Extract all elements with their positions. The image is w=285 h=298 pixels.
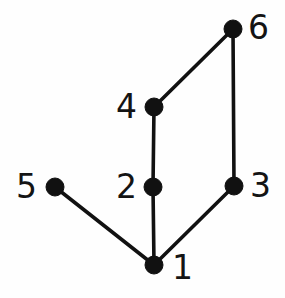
graph-node-2[interactable] [144,178,162,196]
graph-figure: 123456 [0,0,285,298]
edges-group [55,29,234,265]
graph-node-3[interactable] [225,177,243,195]
graph-edge-3-1 [154,186,234,265]
graph-edge-6-3 [233,29,234,186]
graph-node-label-1: 1 [172,251,193,284]
graph-node-label-5: 5 [16,170,37,203]
graph-node-4[interactable] [145,98,163,116]
graph-node-label-4: 4 [116,90,137,123]
graph-edge-1-5 [55,187,154,265]
graph-node-label-2: 2 [116,170,137,203]
graph-edge-2-4 [153,107,154,187]
graph-edge-4-6 [154,29,233,107]
graph-canvas [0,0,285,298]
graph-edge-1-2 [153,187,154,265]
graph-node-6[interactable] [224,20,242,38]
graph-node-5[interactable] [46,178,64,196]
graph-node-1[interactable] [145,256,163,274]
graph-node-label-6: 6 [248,11,269,44]
graph-node-label-3: 3 [250,169,271,202]
nodes-group [46,20,243,274]
